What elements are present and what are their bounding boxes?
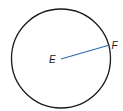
circle-diagram: E F	[0, 0, 123, 111]
label-point-f: F	[112, 40, 119, 51]
label-center-e: E	[49, 54, 56, 65]
diagram-canvas: E F	[0, 0, 123, 111]
radius-segment-ef	[61, 45, 110, 59]
